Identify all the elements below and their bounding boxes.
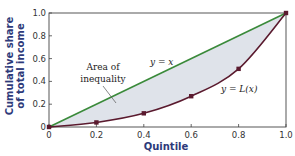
- data-point-marker: [47, 125, 51, 129]
- area-label-line1: Area of: [85, 62, 120, 72]
- svg-text:0.6: 0.6: [32, 54, 46, 64]
- area-label-line2: inequality: [80, 74, 126, 84]
- lorenz-curve-label: y = L(x): [220, 84, 258, 94]
- y-axis-title: Cumulative share of total income: [4, 11, 26, 121]
- x-axis-ticks: 00.20.40.60.81.0: [46, 124, 292, 140]
- data-point-marker: [189, 94, 193, 98]
- equality-line: [49, 13, 286, 127]
- lorenz-curve-chart: 00.20.40.60.81.0 00.20.40.60.81.0 Area o…: [0, 0, 295, 156]
- y-axis-title-line2: of total income: [15, 11, 26, 121]
- svg-text:0: 0: [41, 122, 46, 132]
- svg-text:0.2: 0.2: [32, 99, 46, 109]
- svg-text:0.8: 0.8: [232, 130, 246, 140]
- data-point-marker: [284, 11, 288, 15]
- data-point-marker: [142, 111, 146, 115]
- y-axis-title-line1: Cumulative share: [4, 11, 15, 121]
- svg-text:0.2: 0.2: [90, 130, 104, 140]
- data-point-marker: [94, 120, 98, 124]
- svg-text:0.6: 0.6: [184, 130, 198, 140]
- svg-text:1.0: 1.0: [279, 130, 293, 140]
- equality-line-label: y = x: [149, 57, 173, 67]
- svg-text:0: 0: [46, 130, 51, 140]
- svg-text:0.8: 0.8: [32, 31, 46, 41]
- svg-text:0.4: 0.4: [32, 76, 46, 86]
- svg-text:0.4: 0.4: [137, 130, 151, 140]
- svg-text:1.0: 1.0: [32, 8, 46, 18]
- data-point-marker: [236, 67, 240, 71]
- x-axis-title: Quintile: [0, 141, 295, 152]
